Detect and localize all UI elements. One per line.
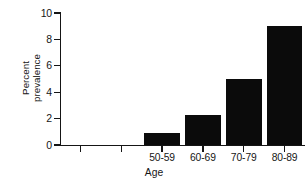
x-tick-60-69 xyxy=(202,146,203,152)
y-axis-line xyxy=(60,12,61,146)
y-tick-2 xyxy=(54,118,60,119)
x-tick-50-59 xyxy=(161,146,162,152)
x-tick-label-80-89: 80-89 xyxy=(262,152,308,163)
y-tick-label-10: 10 xyxy=(8,8,52,19)
y-tick-10 xyxy=(54,12,60,13)
y-tick-0 xyxy=(54,144,60,145)
x-tick-label-70-79: 70-79 xyxy=(221,152,267,163)
x-tick-70-79 xyxy=(243,146,244,152)
x-tick-label-50-59: 50-59 xyxy=(139,152,185,163)
x-tick-label-60-69: 60-69 xyxy=(180,152,226,163)
y-tick-8 xyxy=(54,39,60,40)
bar-60-69 xyxy=(185,115,221,145)
x-tick-80-89 xyxy=(284,146,285,152)
bar-50-59 xyxy=(144,133,180,145)
bar-chart-figure: Percent prevalence 0246810 50-5960-6970-… xyxy=(0,0,308,190)
y-tick-label-8: 8 xyxy=(8,34,52,45)
bar-80-89 xyxy=(267,26,303,145)
bar-70-79 xyxy=(226,79,262,145)
x-axis-title: Age xyxy=(0,167,308,178)
y-tick-4 xyxy=(54,92,60,93)
x-tick-empty-2 xyxy=(121,146,122,152)
y-tick-label-2: 2 xyxy=(8,113,52,124)
y-tick-label-6: 6 xyxy=(8,60,52,71)
y-tick-6 xyxy=(54,65,60,66)
y-tick-label-4: 4 xyxy=(8,87,52,98)
y-tick-label-0: 0 xyxy=(8,140,52,151)
x-tick-empty-1 xyxy=(80,146,81,152)
